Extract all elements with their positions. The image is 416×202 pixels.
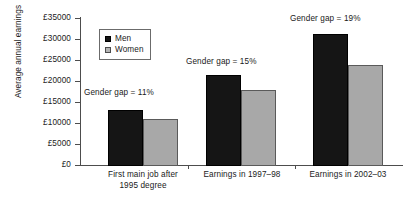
legend-item-men: Men (105, 33, 144, 44)
legend-label-women: Women (115, 45, 144, 54)
y-tick-label-30000: £30000 (43, 34, 71, 43)
annotation-gender-gap-3: Gender gap = 19% (290, 14, 361, 23)
bar-women-group-2 (241, 90, 276, 166)
y-axis-title: Average annual earnings (14, 0, 23, 122)
x-tick-separator-2 (295, 165, 296, 169)
y-tick-30000 (75, 39, 80, 40)
legend-label-men: Men (115, 34, 131, 43)
x-axis-label-group-1: First main job after 1995 degree (88, 170, 198, 191)
y-tick-10000 (75, 123, 80, 124)
x-tick-separator-1 (188, 165, 189, 169)
y-tick-35000 (75, 18, 80, 19)
x-axis-label-group-2-line-1: Earnings in 1997–98 (190, 170, 294, 181)
bar-chart: Average annual earnings £35000 £30000 £2… (0, 0, 416, 202)
y-tick-5000 (75, 144, 80, 145)
bar-men-group-3 (313, 34, 348, 166)
x-axis-label-group-3: Earnings in 2002–03 (296, 170, 400, 181)
y-tick-0 (75, 165, 80, 166)
y-tick-label-35000: £35000 (43, 13, 71, 22)
x-axis-label-group-2: Earnings in 1997–98 (190, 170, 294, 181)
x-axis-label-group-1-line-1: First main job after (88, 170, 198, 181)
legend: Men Women (99, 29, 151, 60)
y-tick-25000 (75, 60, 80, 61)
y-tick-label-15000: £15000 (43, 97, 71, 106)
y-tick-label-10000: £10000 (43, 118, 71, 127)
annotation-gender-gap-1: Gender gap = 11% (84, 88, 154, 97)
legend-swatch-women-icon (105, 47, 111, 53)
y-tick-label-0: £0 (62, 160, 71, 169)
legend-swatch-men-icon (105, 36, 111, 42)
y-tick-label-5000: £5000 (48, 139, 71, 148)
x-axis-label-group-1-line-2: 1995 degree (88, 181, 198, 192)
y-tick-label-20000: £20000 (43, 76, 71, 85)
y-tick-15000 (75, 102, 80, 103)
y-axis-line (80, 17, 81, 166)
bar-women-group-3 (348, 65, 383, 166)
bar-men-group-2 (206, 75, 241, 166)
y-tick-20000 (75, 81, 80, 82)
bar-men-group-1 (108, 110, 143, 166)
legend-item-women: Women (105, 44, 144, 55)
bar-women-group-1 (143, 119, 178, 166)
x-axis-label-group-3-line-1: Earnings in 2002–03 (296, 170, 400, 181)
y-tick-label-25000: £25000 (43, 55, 71, 64)
annotation-gender-gap-2: Gender gap = 15% (186, 57, 257, 66)
